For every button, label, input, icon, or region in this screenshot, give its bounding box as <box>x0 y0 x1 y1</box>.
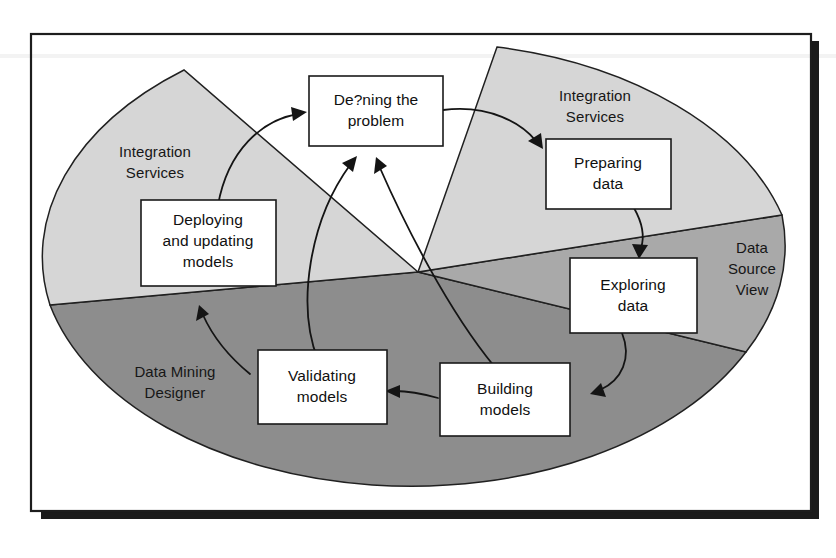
node-label-line-1: Deploying <box>173 211 243 228</box>
node-exploring-data[interactable]: Exploring data <box>570 258 697 333</box>
node-label-line-1: Validating <box>288 367 356 384</box>
node-label-line-1: Exploring <box>600 276 666 293</box>
sector-label-data-mining-designer: Data Mining <box>134 363 215 380</box>
sector-label-integration-services-right: Integration <box>559 87 631 104</box>
node-label-line-1: Building <box>477 380 533 397</box>
node-label-line-1: De?ning the <box>334 91 419 108</box>
sector-label-integration-services-left-2: Services <box>126 164 184 181</box>
node-box[interactable] <box>546 139 671 209</box>
node-preparing-data[interactable]: Preparing data <box>546 139 671 209</box>
sector-label-data-source-view-3: View <box>736 281 769 298</box>
node-label-line-2: data <box>593 175 624 192</box>
node-label-line-2: models <box>297 388 348 405</box>
node-box[interactable] <box>309 76 443 146</box>
node-label-line-2: data <box>618 297 649 314</box>
sector-label-integration-services-right-2: Services <box>566 108 624 125</box>
figure-root: Integration Services Integration Service… <box>0 0 836 558</box>
node-label-line-1: Preparing <box>574 154 642 171</box>
node-box[interactable] <box>570 258 697 333</box>
node-deploying-and-updating-models[interactable]: Deploying and updating models <box>141 200 276 286</box>
sector-label-data-source-view-2: Source <box>728 260 776 277</box>
node-defining-the-problem[interactable]: De?ning the problem <box>309 76 443 146</box>
sector-label-integration-services-left: Integration <box>119 143 191 160</box>
node-label-line-3: models <box>183 253 234 270</box>
node-building-models[interactable]: Building models <box>440 363 570 436</box>
node-label-line-2: problem <box>348 112 405 129</box>
node-validating-models[interactable]: Validating models <box>258 350 387 424</box>
sector-label-data-source-view: Data <box>736 239 769 256</box>
node-label-line-2: and updating <box>163 232 254 249</box>
sector-label-data-mining-designer-2: Designer <box>145 384 206 401</box>
lifecycle-diagram: Integration Services Integration Service… <box>0 0 836 558</box>
node-label-line-2: models <box>480 401 531 418</box>
node-box[interactable] <box>440 363 570 436</box>
node-box[interactable] <box>258 350 387 424</box>
